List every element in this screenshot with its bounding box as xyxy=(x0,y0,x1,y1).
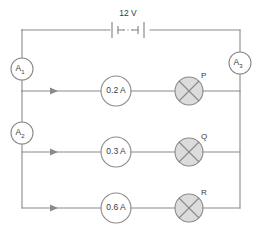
branch-3-current-arrow xyxy=(50,205,58,212)
ammeter-a1: A1 xyxy=(11,58,33,80)
arrow-head-icon xyxy=(50,149,58,156)
arrow-head-icon xyxy=(50,205,58,212)
branch-row-1: 0.2 A P xyxy=(22,71,240,106)
battery-voltage-label: 12 V xyxy=(119,8,137,18)
lamp-r xyxy=(175,194,203,222)
branch-1-current-arrow xyxy=(50,88,58,95)
lamp-q xyxy=(175,138,203,166)
circuit-diagram: 12 V A1 A2 xyxy=(0,0,263,238)
battery-symbol xyxy=(112,22,144,38)
lamp-p-label: P xyxy=(201,71,206,80)
branch-3-reading-label: 0.6 A xyxy=(106,202,126,212)
circuit-schematic-canvas: 12 V A1 A2 xyxy=(0,0,263,238)
branch-2-current-arrow xyxy=(50,149,58,156)
branch-row-2: 0.3 A Q xyxy=(22,132,240,167)
ammeter-a3: A3 xyxy=(229,52,251,74)
lamp-r-label: R xyxy=(201,188,207,197)
branch-row-3: 0.6 A R xyxy=(22,188,240,223)
ammeter-a2: A2 xyxy=(11,122,33,144)
branch-2-reading-label: 0.3 A xyxy=(106,146,126,156)
lamp-q-label: Q xyxy=(201,132,207,141)
lamp-p xyxy=(175,77,203,105)
battery-gap-dot xyxy=(127,29,128,30)
branch-1-reading-label: 0.2 A xyxy=(106,85,126,95)
arrow-head-icon xyxy=(50,88,58,95)
